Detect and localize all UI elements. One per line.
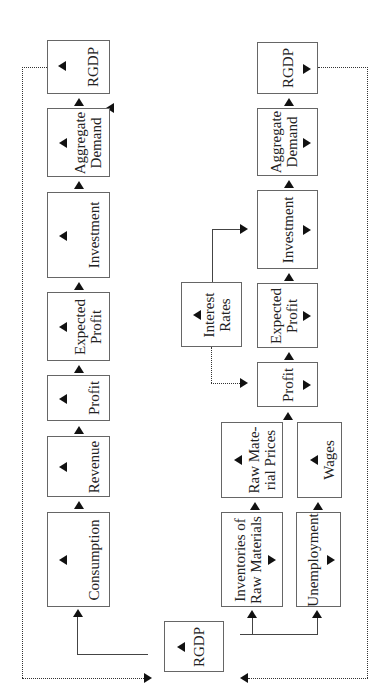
node-label: Investment <box>280 196 296 263</box>
node-revenue: Revenue <box>47 436 110 497</box>
decrease-arrow-icon <box>303 311 311 321</box>
flow-arrowhead <box>284 180 294 188</box>
increase-arrow-icon <box>58 61 66 71</box>
label-line-2: Raw Materials <box>248 516 264 604</box>
label-line-2: rial Prices <box>262 430 278 490</box>
node-label: Wages <box>321 440 337 480</box>
node-interest-rates: Interest Rates <box>181 282 242 347</box>
node-label: RGDP <box>280 48 296 88</box>
node-label: Aggregate Demand <box>268 111 300 173</box>
node-aggregate-demand-upper: Aggregate Demand <box>47 108 110 177</box>
feedback-loop-left <box>22 67 23 678</box>
connector-rgdp-to-supply <box>252 618 253 634</box>
node-investment-lower: Investment <box>257 190 318 269</box>
node-rgdp-top-right: RGDP <box>257 42 318 94</box>
decrease-arrow-icon <box>303 380 311 390</box>
node-label: Raw Mate- rial Prices <box>246 426 278 493</box>
flow-arrowhead <box>74 426 84 434</box>
label-line-1: Aggregate <box>268 111 284 173</box>
increase-arrow-icon <box>193 310 201 320</box>
increase-arrow-icon <box>59 394 67 404</box>
label-line-1: Aggregate <box>72 111 88 173</box>
connector-rgdp-to-consumption <box>77 616 78 655</box>
connector-rgdp-to-consumption <box>77 654 148 655</box>
node-profit-lower: Profit <box>257 362 318 407</box>
node-label: Interest Rates <box>201 292 233 337</box>
node-wages: Wages <box>297 422 342 498</box>
connector-interest-to-investment <box>212 229 213 282</box>
node-raw-material-prices: Raw Mate- rial Prices <box>221 422 283 498</box>
connector-rgdp-to-supply <box>240 634 318 635</box>
connector-interest-to-profit <box>211 383 240 384</box>
flow-arrowhead <box>284 98 294 106</box>
flow-arrowhead <box>240 224 248 234</box>
flow-arrowhead <box>250 502 260 510</box>
flow-arrowhead <box>247 610 257 618</box>
node-expected-profit-upper: Expected Profit <box>47 292 110 361</box>
feedback-loop-left <box>22 678 144 679</box>
flow-arrowhead <box>74 98 84 106</box>
flow-arrowhead <box>74 501 84 509</box>
increase-arrow-icon <box>59 322 67 332</box>
flow-arrowhead <box>144 673 152 683</box>
feedback-loop-left <box>22 67 47 68</box>
node-label: Revenue <box>86 440 102 492</box>
increase-arrow-icon <box>59 231 67 241</box>
flow-arrowhead <box>312 610 322 618</box>
label-line-2: Profit <box>88 309 104 343</box>
node-label: Profit <box>86 381 102 415</box>
node-inventories-raw-materials: Inventories of Raw Materials <box>221 512 283 607</box>
decrease-arrow-icon <box>303 138 311 148</box>
node-expected-profit-lower: Expected Profit <box>257 283 318 348</box>
label-line-2: Rates <box>217 298 233 331</box>
label-line-1: Raw Mate- <box>246 426 262 493</box>
connector-rgdp-to-supply <box>317 618 318 634</box>
connector-interest-to-profit <box>211 347 212 383</box>
node-aggregate-demand-lower: Aggregate Demand <box>257 108 318 176</box>
decrease-arrow-icon <box>303 64 311 74</box>
node-consumption: Consumption <box>47 512 110 607</box>
node-rgdp-start: RGDP <box>164 621 224 672</box>
flow-arrowhead <box>284 352 294 360</box>
node-label: Investment <box>86 202 102 269</box>
node-label: Expected Profit <box>72 299 104 355</box>
label-line-1: Interest <box>201 292 217 337</box>
increase-arrow-icon <box>310 455 318 465</box>
feedback-loop-right <box>248 678 368 679</box>
decrease-arrow-icon <box>268 555 276 565</box>
node-profit-upper: Profit <box>47 375 110 421</box>
node-label: Profit <box>280 367 296 401</box>
connector-interest-to-investment <box>212 229 240 230</box>
label-line-1: Expected <box>268 288 284 344</box>
node-label: Unemployment <box>305 513 321 606</box>
node-rgdp-top-left-frame: RGDP <box>47 40 110 94</box>
label-line-2: Demand <box>284 117 300 168</box>
increase-arrow-icon <box>177 642 185 652</box>
node-label: Aggregate Demand <box>72 111 104 173</box>
flow-arrowhead <box>240 673 248 683</box>
node-unemployment: Unemployment <box>296 512 341 607</box>
decrease-arrow-icon <box>303 225 311 235</box>
node-label: Inventories of Raw Materials <box>232 516 264 604</box>
flow-arrowhead <box>74 365 84 373</box>
flow-arrowhead <box>74 282 84 290</box>
label-line-1: Inventories of <box>232 518 248 602</box>
node-label: RGDP <box>191 626 207 666</box>
flow-arrowhead <box>74 181 84 189</box>
flow-arrowhead <box>313 502 323 510</box>
label-line-2: Demand <box>88 117 104 168</box>
node-label: RGDP <box>85 47 101 87</box>
flow-arrowhead <box>283 412 293 420</box>
feedback-loop-right <box>318 67 368 68</box>
increase-arrow-icon <box>59 462 67 472</box>
node-label: Expected Profit <box>268 288 300 344</box>
increase-arrow-icon <box>234 455 242 465</box>
increase-arrow-icon <box>59 555 67 565</box>
label-line-1: Expected <box>72 299 88 355</box>
flow-arrowhead <box>73 609 83 617</box>
label-line-2: Profit <box>284 298 300 332</box>
node-label: Consumption <box>86 519 102 600</box>
node-investment-upper: Investment <box>47 192 110 278</box>
flow-arrowhead <box>284 273 294 281</box>
increase-arrow-icon <box>59 138 67 148</box>
